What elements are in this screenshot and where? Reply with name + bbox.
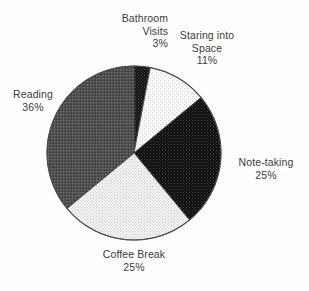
pie-label-staring-into-space-line1: Staring into [168, 29, 246, 42]
pie-chart-screenshot: Bathroom Visits 3% Staring into Space 11… [0, 0, 309, 291]
pie-label-note-taking-line1: Note-taking [228, 156, 304, 169]
pie-label-coffee-break: Coffee Break 25% [82, 248, 186, 273]
pie-label-note-taking: Note-taking 25% [228, 156, 304, 181]
pie-label-coffee-break-line1: Coffee Break [82, 248, 186, 261]
pie-label-reading-value: 36% [4, 101, 62, 114]
pie-label-note-taking-value: 25% [228, 169, 304, 182]
pie-label-staring-into-space-value: 11% [168, 54, 246, 67]
pie-label-bathroom-visits: Bathroom Visits 3% [96, 12, 168, 50]
pie-label-bathroom-visits-line2: Visits [96, 25, 168, 38]
pie-label-staring-into-space-line2: Space [168, 42, 246, 55]
pie-label-reading: Reading 36% [4, 88, 62, 113]
pie-label-reading-line1: Reading [4, 88, 62, 101]
pie-label-bathroom-visits-line1: Bathroom [96, 12, 168, 25]
pie-label-coffee-break-value: 25% [82, 261, 186, 274]
pie-slice-group [47, 66, 221, 240]
pie-label-bathroom-visits-value: 3% [96, 37, 168, 50]
pie-label-staring-into-space: Staring into Space 11% [168, 29, 246, 67]
